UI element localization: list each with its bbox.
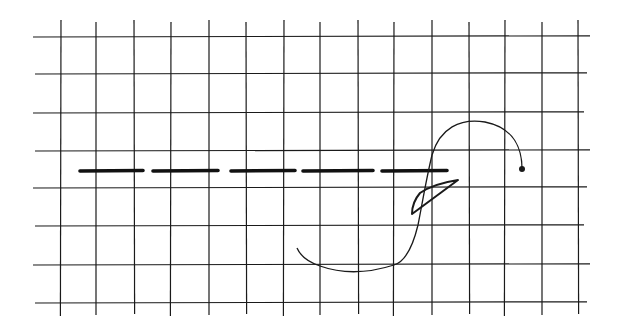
grid-lines xyxy=(33,20,590,316)
grid-horizontal-line xyxy=(33,112,584,113)
grid-vertical-line xyxy=(134,20,135,314)
leaf-loop xyxy=(412,180,458,214)
grid-vertical-line xyxy=(504,20,505,316)
grid-horizontal-line xyxy=(33,264,590,265)
end-dot xyxy=(519,166,525,172)
grid-horizontal-line xyxy=(35,150,590,151)
dash-segment xyxy=(382,171,447,172)
grid-vertical-line xyxy=(469,22,470,314)
dash-segment xyxy=(303,171,373,172)
s-curve xyxy=(297,121,522,271)
grid-vertical-line xyxy=(283,20,284,316)
dash-segment xyxy=(231,171,295,172)
grid-horizontal-line xyxy=(33,187,587,188)
diagram-canvas xyxy=(0,0,621,336)
grid-vertical-line xyxy=(393,22,394,316)
grid-vertical-line xyxy=(358,20,359,314)
grid-vertical-line xyxy=(170,22,171,316)
grid-horizontal-line xyxy=(35,225,584,226)
dash-segment xyxy=(153,171,218,172)
grid-diagram xyxy=(0,0,621,336)
dash-segment xyxy=(80,171,143,172)
dashed-line xyxy=(80,171,447,172)
grid-vertical-line xyxy=(246,22,247,314)
grid-vertical-line xyxy=(60,20,61,316)
grid-horizontal-line xyxy=(33,36,590,37)
grid-vertical-line xyxy=(578,20,579,314)
grid-horizontal-line xyxy=(35,73,587,74)
